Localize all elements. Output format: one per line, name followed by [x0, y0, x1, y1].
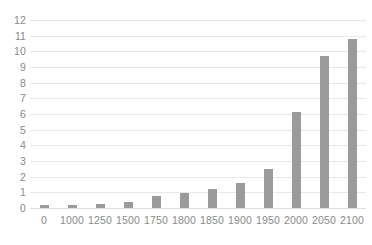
- x-axis-tick-label: 1000: [58, 214, 86, 226]
- bar-slot: [310, 20, 338, 208]
- y-axis-tick-label: 5: [0, 125, 26, 135]
- bar[interactable]: [348, 39, 357, 208]
- bar[interactable]: [152, 196, 161, 208]
- y-axis-tick-label: 6: [0, 109, 26, 119]
- y-axis-tick-label: 4: [0, 140, 26, 150]
- bar[interactable]: [180, 193, 189, 208]
- x-axis-tick-label: 1800: [170, 214, 198, 226]
- x-axis: 0100012501500175018001850190019502000205…: [30, 214, 366, 226]
- y-axis-tick-label: 0: [0, 203, 26, 213]
- bar[interactable]: [208, 189, 217, 208]
- bar-chart: 1211109876543210 01000125015001750180018…: [0, 0, 372, 245]
- x-axis-tick-label: 1500: [114, 214, 142, 226]
- bar-slot: [86, 20, 114, 208]
- bar-slot: [114, 20, 142, 208]
- x-axis-tick-label: 1900: [226, 214, 254, 226]
- y-axis-tick-label: 12: [0, 15, 26, 25]
- y-axis-tick-label: 7: [0, 93, 26, 103]
- y-axis-tick-label: 2: [0, 172, 26, 182]
- bar-slot: [254, 20, 282, 208]
- bar-slot: [142, 20, 170, 208]
- bar-slot: [338, 20, 366, 208]
- x-axis-tick-label: 1750: [142, 214, 170, 226]
- bar-slot: [170, 20, 198, 208]
- y-axis-tick-label: 10: [0, 46, 26, 56]
- bar-slot: [30, 20, 58, 208]
- x-axis-tick-label: 0: [30, 214, 58, 226]
- bar-slot: [58, 20, 86, 208]
- bar-slot: [282, 20, 310, 208]
- bar-series: [30, 20, 366, 208]
- x-axis-tick-label: 2050: [310, 214, 338, 226]
- bar[interactable]: [264, 169, 273, 208]
- x-axis-tick-label: 1250: [86, 214, 114, 226]
- bar[interactable]: [40, 205, 49, 208]
- x-axis-tick-label: 1950: [254, 214, 282, 226]
- y-axis-tick-label: 1: [0, 187, 26, 197]
- bar[interactable]: [320, 56, 329, 208]
- gridline: [30, 208, 366, 209]
- bar[interactable]: [96, 204, 105, 208]
- x-axis-tick-label: 2100: [338, 214, 366, 226]
- plot-area: [30, 20, 366, 208]
- x-axis-tick-label: 2000: [282, 214, 310, 226]
- bar[interactable]: [292, 112, 301, 208]
- y-axis-tick-label: 8: [0, 78, 26, 88]
- bar-slot: [226, 20, 254, 208]
- bar[interactable]: [68, 205, 77, 208]
- y-axis-tick-label: 11: [0, 31, 26, 41]
- bar[interactable]: [124, 202, 133, 208]
- bar-slot: [198, 20, 226, 208]
- y-axis: 1211109876543210: [0, 0, 26, 245]
- x-axis-tick-label: 1850: [198, 214, 226, 226]
- y-axis-tick-label: 3: [0, 156, 26, 166]
- y-axis-tick-label: 9: [0, 62, 26, 72]
- bar[interactable]: [236, 183, 245, 208]
